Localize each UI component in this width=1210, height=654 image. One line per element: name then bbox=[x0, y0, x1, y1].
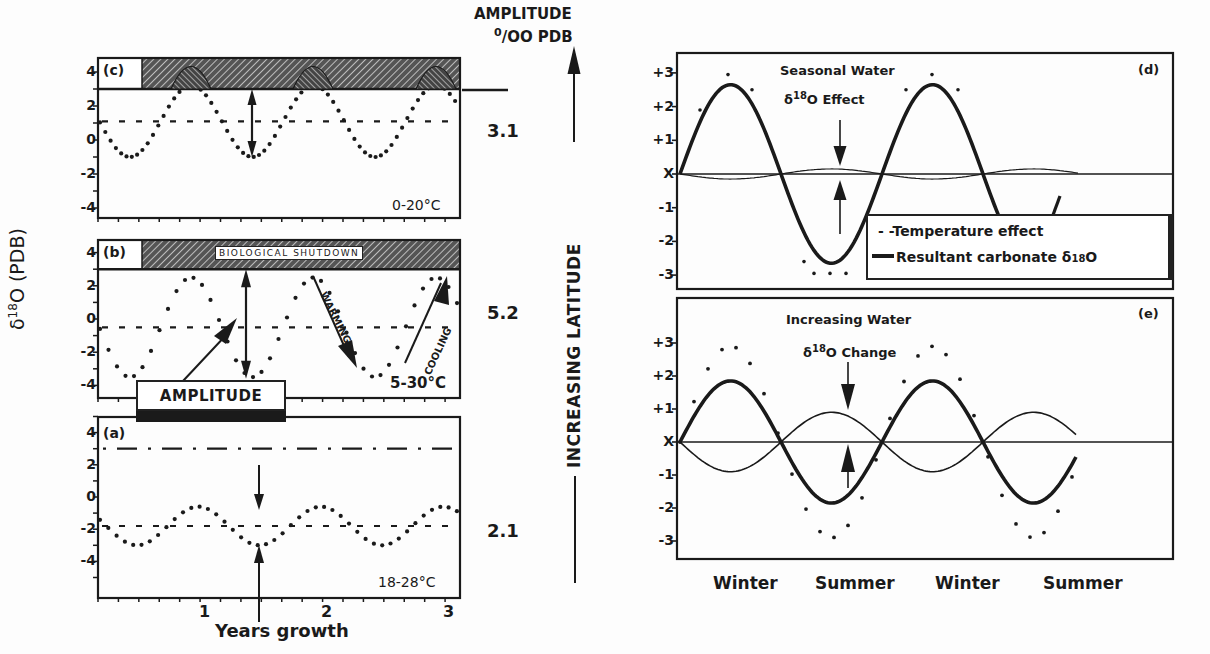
data-point bbox=[388, 541, 392, 545]
data-point bbox=[336, 109, 340, 113]
data-point bbox=[285, 315, 289, 319]
data-point bbox=[930, 344, 934, 348]
data-point bbox=[140, 148, 144, 152]
arrow-down-icon bbox=[241, 361, 251, 379]
data-point bbox=[750, 88, 754, 92]
data-point bbox=[384, 149, 388, 153]
data-point bbox=[268, 356, 272, 360]
data-point bbox=[802, 260, 806, 264]
data-point bbox=[319, 279, 323, 283]
data-point bbox=[339, 514, 343, 518]
data-point bbox=[379, 153, 383, 157]
data-point bbox=[283, 115, 287, 119]
data-point bbox=[352, 137, 356, 141]
data-point bbox=[412, 303, 416, 307]
data-point bbox=[1028, 535, 1032, 539]
biological-shutdown-label: BIOLOGICAL SHUTDOWN bbox=[215, 246, 363, 260]
data-point bbox=[115, 364, 119, 368]
right-chart-group bbox=[672, 53, 1173, 559]
panel-b-ytick: -4 bbox=[80, 376, 96, 392]
data-point bbox=[281, 531, 285, 535]
data-point bbox=[302, 282, 306, 286]
data-point bbox=[98, 518, 102, 522]
panel-e bbox=[672, 298, 1173, 559]
legend-temperature: - -Temperature effect bbox=[878, 223, 1043, 239]
data-point bbox=[438, 505, 442, 509]
data-point bbox=[278, 125, 282, 129]
panel-c-tag: (c) bbox=[103, 62, 124, 78]
season-label-2: Summer bbox=[815, 573, 895, 593]
warming-arrow-icon bbox=[338, 340, 357, 368]
data-point bbox=[181, 510, 185, 514]
carbonate-d18O-dotted-series bbox=[98, 276, 459, 380]
data-point bbox=[206, 507, 210, 511]
data-point bbox=[247, 541, 251, 545]
data-point bbox=[364, 537, 368, 541]
panel-d-annotation-2: δ18O Effect bbox=[784, 90, 865, 107]
panel-e-ytick: +1 bbox=[653, 400, 674, 416]
data-point bbox=[130, 155, 134, 159]
data-point bbox=[832, 536, 836, 540]
data-point bbox=[748, 362, 752, 366]
data-point bbox=[164, 525, 168, 529]
data-point bbox=[347, 522, 351, 526]
data-point bbox=[404, 324, 408, 328]
data-point bbox=[251, 375, 255, 379]
x-axis-label: Years growth bbox=[215, 620, 349, 641]
amplitude-a: 2.1 bbox=[487, 520, 519, 541]
figure-canvas bbox=[0, 0, 1210, 654]
x-tick-1: 1 bbox=[199, 602, 210, 621]
data-point bbox=[114, 146, 118, 150]
panel-c-ytick: 0 bbox=[86, 131, 96, 147]
data-point bbox=[400, 126, 404, 130]
carbonate-d18O-dotted-series bbox=[98, 505, 459, 548]
annotation-text: O Change bbox=[826, 345, 897, 360]
data-point bbox=[305, 509, 309, 513]
data-point bbox=[217, 318, 221, 322]
data-point bbox=[289, 106, 293, 110]
delta-symbol: δ bbox=[803, 345, 812, 360]
data-point bbox=[455, 509, 459, 513]
data-point bbox=[297, 515, 301, 519]
data-point bbox=[174, 289, 178, 293]
data-point bbox=[429, 277, 433, 281]
data-point bbox=[430, 508, 434, 512]
panel-d-ytick: +3 bbox=[653, 64, 674, 80]
data-point bbox=[860, 496, 864, 500]
data-point bbox=[246, 154, 250, 158]
data-point bbox=[177, 90, 181, 94]
panel-e-ytick: -1 bbox=[658, 466, 674, 482]
data-point bbox=[1056, 509, 1060, 513]
data-point bbox=[956, 88, 960, 92]
data-point bbox=[397, 537, 401, 541]
x-tick-2: 2 bbox=[321, 602, 332, 621]
data-point bbox=[1070, 475, 1074, 479]
data-point bbox=[447, 505, 451, 509]
data-point bbox=[812, 272, 816, 276]
data-point bbox=[140, 365, 144, 369]
panel-e-annotation-1: Increasing Water bbox=[786, 312, 911, 327]
data-point bbox=[268, 142, 272, 146]
data-point bbox=[453, 99, 457, 103]
panel-e-ytick: +3 bbox=[653, 334, 674, 350]
data-point bbox=[372, 542, 376, 546]
panel-a-temp: 18-28°C bbox=[378, 574, 435, 590]
latitude-arrow-up-icon bbox=[568, 46, 581, 74]
panel-d-ytick: -3 bbox=[658, 266, 674, 282]
data-point bbox=[189, 506, 193, 510]
data-point bbox=[204, 93, 208, 97]
season-label-1: Winter bbox=[713, 573, 778, 593]
data-point bbox=[166, 307, 170, 311]
data-point bbox=[387, 363, 391, 367]
data-point bbox=[215, 110, 219, 114]
data-point bbox=[106, 348, 110, 352]
resultant-carbonate-tail bbox=[1053, 196, 1060, 215]
data-point bbox=[98, 120, 102, 124]
panel-frame bbox=[98, 417, 460, 598]
panel-d-ytick: -1 bbox=[658, 199, 674, 215]
data-point bbox=[209, 101, 213, 105]
panel-b-ytick: 2 bbox=[86, 277, 96, 293]
data-point bbox=[214, 512, 218, 516]
data-point bbox=[902, 380, 906, 384]
data-point bbox=[314, 505, 318, 509]
